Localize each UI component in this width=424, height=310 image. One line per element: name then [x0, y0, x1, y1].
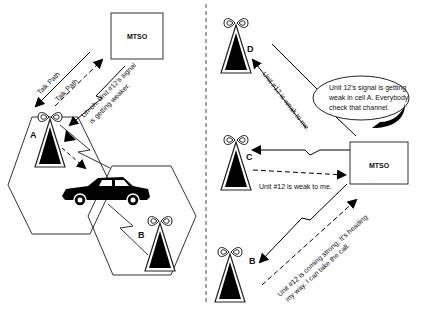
b-reply-line1: Unit #12 is coming strong; It's heading	[276, 213, 369, 298]
tower-a-icon	[35, 113, 65, 168]
mtso-b-query-arrow	[260, 184, 347, 262]
cell-a-label: A	[30, 130, 37, 140]
cell-d-label: D	[247, 44, 254, 54]
mtso-label-left: MTSO	[127, 33, 148, 40]
arrowhead-a	[64, 130, 76, 142]
bubble-line2: weak in cell A. Everybody	[328, 94, 409, 102]
tower-b-icon-right	[215, 248, 245, 303]
mtso-speech-bubble: Unit 12's signal is getting weak in cell…	[313, 76, 409, 128]
tower-c-icon	[221, 136, 251, 191]
mtso-c-query-arrow	[253, 150, 350, 155]
signal-note-line1: Uh-oh, Unit #12's signal	[80, 61, 138, 119]
b-reply-line2: my way. I can take the call.	[284, 242, 351, 304]
cell-b-label-right: B	[249, 256, 256, 266]
cell-c-label: C	[246, 152, 253, 162]
bubble-line1: Unit 12's signal is getting	[329, 84, 406, 92]
cell-b-label-left: B	[138, 230, 145, 240]
cell-hexagon-a	[8, 117, 112, 234]
mtso-label-right: MTSO	[369, 162, 390, 169]
c-reply-text: Unit #12 is weak to me.	[259, 183, 332, 190]
talk-path-label-1: Talk Path	[36, 70, 61, 95]
talk-path-label-2: Talk Path	[54, 77, 79, 102]
left-panel: MTSO Talk Path Talk Path Uh-oh, Unit #12…	[8, 13, 196, 275]
c-reply-arrow	[253, 170, 345, 175]
tower-b-icon-left	[145, 217, 175, 272]
d-reply-text: Unit #12 is weak to me.	[261, 70, 311, 132]
car-icon	[62, 177, 150, 206]
bubble-line3: check that channel.	[329, 104, 389, 111]
cellular-handoff-diagram: MTSO Talk Path Talk Path Uh-oh, Unit #12…	[0, 0, 424, 310]
right-panel: D Unit #12 is weak to me. Unit 12's sign…	[215, 19, 409, 304]
